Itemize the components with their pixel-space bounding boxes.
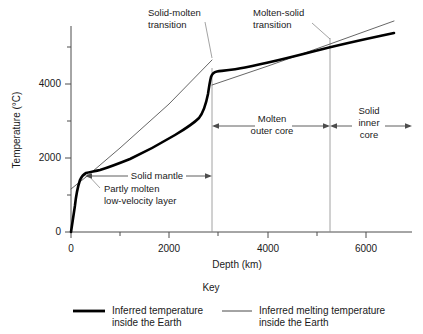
arrow-head-inner-core-left [330,123,337,129]
region-label-outer-core-line1: Molten [258,113,287,124]
y-axis-title: Temperature (°C) [11,92,22,169]
x-tick-label-0: 0 [68,243,74,254]
key-label-inferred-melting-line2: inside the Earth [259,317,329,328]
key-label-inferred-melting-line1: Inferred melting temperature [259,305,386,316]
annotation-partly-molten-line2: low-velocity layer [104,195,176,206]
chart-canvas: 0 2000 4000 0 2000 4000 6000 Depth (km) … [0,0,423,334]
key-title: Key [202,282,219,293]
arrow-head-mantle-right [205,173,212,179]
leader-solid-molten [205,22,212,58]
key-entry-inferred-temperature[interactable]: Inferred temperature inside the Earth [73,305,204,328]
x-tick-label-6000: 6000 [355,243,378,254]
annotation-molten-solid-line1: Molten-solid [253,7,304,18]
x-tick-label-4000: 4000 [257,243,280,254]
x-axis-title: Depth (km) [212,259,261,270]
x-tick-label-2000: 2000 [158,243,181,254]
y-tick-label-4000: 4000 [39,78,62,89]
region-label-inner-core-line3: core [360,129,378,140]
annotation-partly-molten-line1: Partly molten [104,183,159,194]
arrow-head-inner-core-right [405,123,412,129]
leader-molten-solid [312,23,330,39]
y-tick-label-2000: 2000 [39,152,62,163]
region-label-inner-core-line2: inner [358,117,379,128]
annotation-solid-molten-line2: transition [148,19,187,30]
arrow-head-outer-core-right [323,123,330,129]
annotation-solid-molten-line1: Solid-molten [148,7,201,18]
x-axis-ticks [71,232,366,238]
y-axis-ticks [65,47,71,232]
region-label-outer-core-line2: outer core [251,125,294,136]
key-label-inferred-temperature-line2: inside the Earth [112,317,182,328]
y-tick-label-0: 0 [55,226,61,237]
key-label-inferred-temperature-line1: Inferred temperature [112,305,204,316]
earth-temperature-figure: 0 2000 4000 0 2000 4000 6000 Depth (km) … [0,0,423,334]
key-entry-inferred-melting-temperature[interactable]: Inferred melting temperature inside the … [222,305,386,328]
region-label-inner-core-line1: Solid [358,105,379,116]
annotation-molten-solid-line2: transition [253,19,292,30]
region-label-solid-mantle: Solid mantle [131,170,183,181]
arrow-head-outer-core-left [212,123,219,129]
